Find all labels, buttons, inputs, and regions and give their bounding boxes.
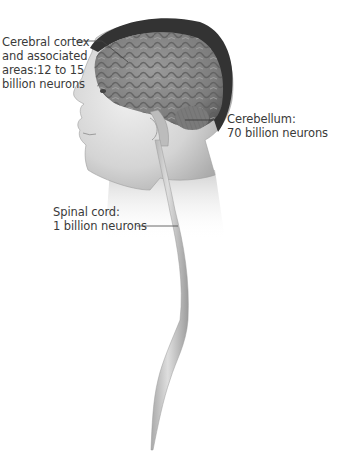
cerebellum-folia	[175, 106, 209, 130]
label-line: Cerebral cortex	[2, 35, 89, 49]
label-line: areas:12 to 15	[2, 63, 89, 77]
eye	[100, 89, 106, 93]
label-line: 70 billion neurons	[227, 126, 328, 140]
label-cerebral-cortex: Cerebral cortex and associated areas:12 …	[2, 35, 89, 91]
label-line: Cerebellum:	[227, 112, 328, 126]
label-cerebellum: Cerebellum: 70 billion neurons	[227, 112, 328, 140]
label-line: billion neurons	[2, 77, 89, 91]
label-spinal-cord: Spinal cord: 1 billion neurons	[53, 205, 147, 233]
anatomy-figure: Cerebral cortex and associated areas:12 …	[0, 0, 342, 466]
label-line: and associated	[2, 49, 89, 63]
label-line: 1 billion neurons	[53, 219, 147, 233]
label-line: Spinal cord:	[53, 205, 147, 219]
